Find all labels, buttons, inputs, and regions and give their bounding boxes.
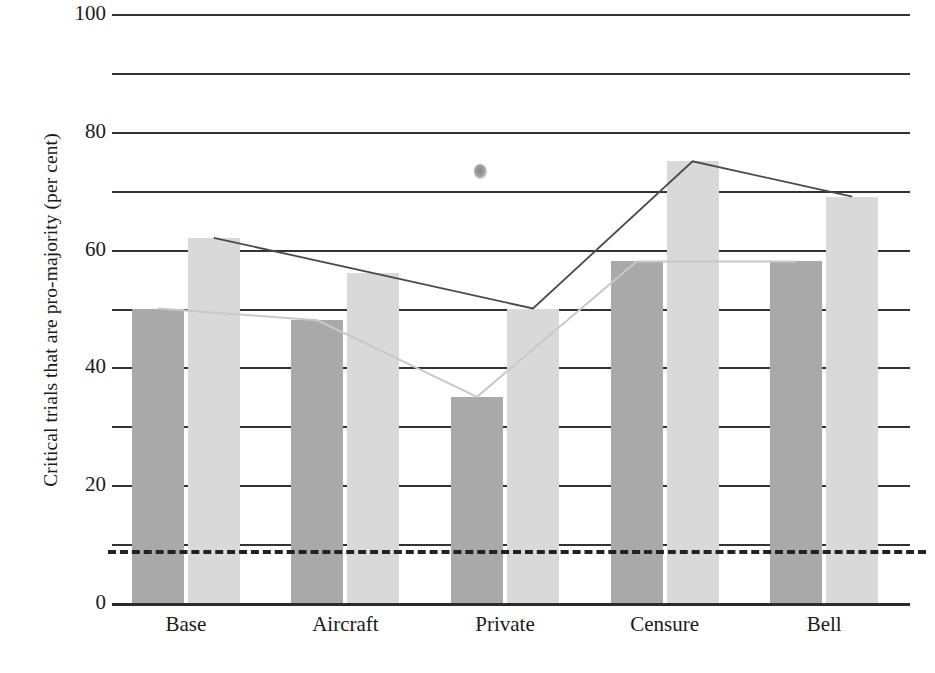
- x-axis-baseline: [112, 603, 910, 606]
- y-axis-tick-labels: 020406080100: [48, 0, 106, 673]
- x-tick-label-bell: Bell: [750, 612, 898, 637]
- print-smudge-artifact: [474, 164, 487, 179]
- connector-line-series-b: [214, 161, 852, 308]
- x-axis-category-labels: BaseAircraftPrivateCensureBell: [112, 612, 910, 652]
- x-tick-label-private: Private: [431, 612, 579, 637]
- bar-aircraft-series-a: [291, 320, 343, 603]
- y-tick-label-60: 60: [85, 239, 106, 260]
- gridline-80: [112, 132, 910, 134]
- bar-bell-series-b: [826, 197, 878, 603]
- plot-area: [112, 14, 910, 603]
- y-tick-label-100: 100: [75, 3, 107, 24]
- gridline-90: [112, 73, 910, 75]
- y-tick-label-80: 80: [85, 121, 106, 142]
- bar-censure-series-b: [667, 161, 719, 603]
- x-tick-label-aircraft: Aircraft: [271, 612, 419, 637]
- bar-base-series-a: [132, 309, 184, 604]
- gridline-70: [112, 191, 910, 193]
- bar-private-series-b: [507, 309, 559, 604]
- gridline-100: [112, 14, 910, 16]
- chart-figure: Critical trials that are pro-majority (p…: [0, 0, 935, 673]
- x-tick-label-censure: Censure: [591, 612, 739, 637]
- x-tick-label-base: Base: [112, 612, 260, 637]
- y-tick-label-20: 20: [85, 474, 106, 495]
- reference-line-chance-baseline: [108, 550, 926, 554]
- bar-base-series-b: [188, 238, 240, 603]
- bar-private-series-a: [451, 397, 503, 603]
- y-tick-label-0: 0: [96, 592, 107, 613]
- y-tick-label-40: 40: [85, 356, 106, 377]
